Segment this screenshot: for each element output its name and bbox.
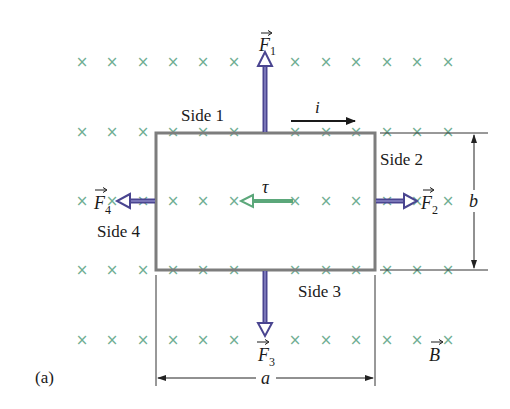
svg-text:3: 3	[269, 355, 275, 369]
field-x-mark: ×	[411, 123, 424, 141]
field-x-mark: ×	[320, 53, 333, 71]
field-x-mark: ×	[228, 53, 241, 71]
field-x-mark: ×	[350, 331, 363, 349]
b-field-label: B	[429, 340, 443, 366]
side4-label: Side 4	[97, 222, 140, 241]
field-x-mark: ×	[76, 53, 89, 71]
field-x-mark: ×	[320, 331, 333, 349]
field-x-mark: ×	[76, 331, 89, 349]
svg-text:1: 1	[270, 44, 276, 58]
f1-label: F 1	[258, 31, 276, 59]
field-x-mark: ×	[137, 123, 150, 141]
field-x-mark: ×	[228, 192, 241, 210]
side2-label: Side 2	[380, 150, 423, 169]
field-x-mark: ×	[442, 123, 455, 141]
field-x-mark: ×	[442, 192, 455, 210]
field-x-mark: ×	[228, 331, 241, 349]
field-x-mark: ×	[442, 331, 455, 349]
dimension-b-label: b	[469, 191, 478, 211]
f3-label: F 3	[257, 340, 275, 370]
field-x-mark: ×	[137, 261, 150, 279]
current-label: i	[315, 98, 320, 117]
field-x-mark: ×	[167, 192, 180, 210]
svg-text:B: B	[429, 345, 440, 365]
force-arrow-f1	[258, 52, 272, 132]
field-x-mark: ×	[106, 53, 119, 71]
field-x-mark: ×	[381, 331, 394, 349]
field-x-mark: ×	[350, 53, 363, 71]
field-x-mark: ×	[320, 192, 333, 210]
field-x-mark: ×	[197, 53, 210, 71]
side1-label: Side 1	[181, 106, 224, 125]
field-x-mark: ×	[381, 123, 394, 141]
field-x-mark: ×	[137, 53, 150, 71]
torque-label: τ	[262, 177, 269, 197]
svg-text:2: 2	[432, 203, 438, 217]
field-x-mark: ×	[442, 53, 455, 71]
field-x-mark: ×	[289, 331, 302, 349]
field-x-mark: ×	[106, 331, 119, 349]
dimension-a-label: a	[261, 368, 270, 388]
side3-label: Side 3	[298, 282, 341, 301]
field-x-mark: ×	[76, 261, 89, 279]
field-x-mark: ×	[106, 123, 119, 141]
field-x-mark: ×	[197, 192, 210, 210]
field-x-mark: ×	[76, 123, 89, 141]
magnetic-torque-diagram: ××××××××××××××××××××××××××××××××××××××××…	[0, 0, 510, 409]
field-x-mark: ×	[411, 53, 424, 71]
field-x-mark: ×	[167, 53, 180, 71]
field-x-mark: ×	[106, 261, 119, 279]
force-arrow-f3	[258, 271, 272, 336]
field-x-mark: ×	[350, 192, 363, 210]
panel-label: (a)	[35, 368, 54, 387]
field-x-mark: ×	[76, 192, 89, 210]
field-x-mark: ×	[289, 53, 302, 71]
field-x-mark: ×	[381, 53, 394, 71]
field-x-mark: ×	[197, 331, 210, 349]
field-x-mark: ×	[411, 331, 424, 349]
field-x-mark: ×	[137, 331, 150, 349]
svg-text:4: 4	[105, 203, 111, 217]
field-x-mark: ×	[167, 331, 180, 349]
